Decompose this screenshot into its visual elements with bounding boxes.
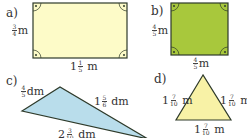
rectangle-a-width-label: 115 m xyxy=(70,60,98,73)
square-b-width-label: 45m xyxy=(192,57,209,70)
figure-b-label: b) xyxy=(151,5,163,17)
rectangle-a xyxy=(33,3,127,58)
triangle-d-left-label: 1710 m xyxy=(162,94,193,107)
triangle-d-right-label: 1710 m xyxy=(220,94,247,107)
triangle-c-side1-label: 45dm xyxy=(20,85,44,98)
triangle-d-bottom-label: 1710 m xyxy=(194,123,225,136)
fraction: 34 xyxy=(12,24,17,37)
triangle-c-side3-label: 2310 dm xyxy=(58,128,96,138)
triangle-c-side2-label: 156 dm xyxy=(94,95,129,108)
rectangle-a-height-label: 34m xyxy=(11,24,28,37)
square-b xyxy=(171,3,228,55)
figure-c-label: c) xyxy=(6,75,17,87)
figure-d-label: d) xyxy=(154,73,166,85)
square-b-height-label: 45m xyxy=(151,24,168,37)
figure-a-label: a) xyxy=(6,7,18,19)
figures-canvas xyxy=(0,0,247,138)
